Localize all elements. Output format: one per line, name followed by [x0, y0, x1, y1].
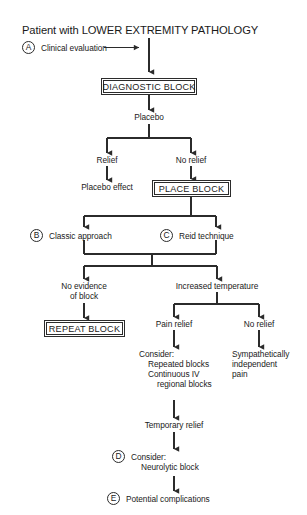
node-increased-temperature: Increased temperature [176, 282, 258, 292]
node-consider-repeated-blocks-line4: regional blocks [157, 380, 212, 390]
node-relief: Relief [97, 156, 118, 166]
page-title: Patient with LOWER EXTREMITY PATHOLOGY [22, 24, 258, 37]
step-marker-a: A [22, 41, 35, 54]
step-marker-e: E [107, 492, 120, 505]
step-marker-c-letter: C [163, 231, 169, 239]
flowchart-diagram: Patient with LOWER EXTREMITY PATHOLOGY A… [0, 0, 307, 515]
node-placebo-effect: Placebo effect [81, 183, 133, 193]
node-classic-approach: Classic approach [49, 232, 112, 242]
node-pain-relief: Pain relief [156, 320, 192, 330]
node-repeat-block-label: REPEAT BLOCK [49, 324, 120, 334]
node-place-block: PLACE BLOCK [152, 180, 231, 197]
step-marker-e-letter: E [111, 494, 117, 502]
step-marker-d: D [112, 450, 125, 463]
node-clinical-evaluation: Clinical evaluation [41, 44, 107, 54]
node-no-relief-2: No relief [244, 320, 274, 330]
node-consider-neurolytic-line2: Neurolytic block [141, 463, 199, 473]
node-sympathetically-independent-pain: Sympathetically independent pain [232, 350, 289, 379]
step-marker-c: C [160, 229, 173, 242]
node-consider-neurolytic-line1: Consider: [131, 453, 166, 463]
node-potential-complications: Potential complications [126, 495, 210, 505]
step-marker-a-letter: A [26, 43, 32, 51]
step-marker-b: B [30, 229, 43, 242]
node-no-relief-1: No relief [176, 156, 206, 166]
node-diagnostic-block: DIAGNOSTIC BLOCK [101, 78, 197, 95]
node-placebo: Placebo [134, 113, 164, 123]
step-marker-d-letter: D [115, 452, 121, 460]
node-reid-technique: Reid technique [179, 232, 234, 242]
node-temporary-relief: Temporary relief [145, 421, 204, 431]
node-diagnostic-block-label: DIAGNOSTIC BLOCK [102, 82, 195, 92]
node-repeat-block: REPEAT BLOCK [44, 320, 125, 337]
step-marker-b-letter: B [34, 231, 40, 239]
node-no-evidence-of-block: No evidence of block [61, 282, 107, 302]
node-place-block-label: PLACE BLOCK [159, 184, 224, 194]
